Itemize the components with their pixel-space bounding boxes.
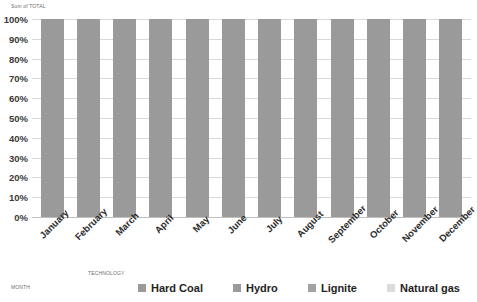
bar-segment[interactable]: [222, 19, 245, 217]
bar-segment[interactable]: [294, 19, 317, 217]
legend-entry[interactable]: Hydro: [233, 282, 278, 294]
x-axis-tick-slot: July: [252, 217, 289, 269]
bar-group[interactable]: [34, 19, 70, 217]
y-axis-tick-label: 70%: [9, 73, 28, 84]
bar-stack[interactable]: [331, 19, 354, 217]
bar-segment[interactable]: [186, 19, 209, 217]
bar-group[interactable]: [252, 19, 288, 217]
x-axis-tick-label: May: [190, 213, 211, 234]
y-axis: 0%10%20%30%40%50%60%70%80%90%100%: [0, 19, 30, 217]
x-axis-tick-slot: October: [361, 217, 398, 269]
bar-stack[interactable]: [77, 19, 100, 217]
y-axis-tick-label: 80%: [9, 53, 28, 64]
bar-group[interactable]: [397, 19, 433, 217]
pivot-value-field-caption: Sum of TOTAL: [11, 3, 46, 9]
legend-swatch-icon: [308, 284, 316, 292]
legend-label: Hydro: [246, 282, 278, 294]
bar-segment[interactable]: [41, 19, 64, 217]
legend-entry[interactable]: Hard Coal: [138, 282, 203, 294]
x-axis-tick-slot: March: [105, 217, 142, 269]
bar-stack[interactable]: [186, 19, 209, 217]
bar-stack[interactable]: [41, 19, 64, 217]
bar-segment[interactable]: [77, 19, 100, 217]
bar-group[interactable]: [433, 19, 469, 217]
bar-stack[interactable]: [294, 19, 317, 217]
x-axis-tick-slot: January: [32, 217, 69, 269]
bar-group[interactable]: [324, 19, 360, 217]
y-axis-tick-label: 40%: [9, 132, 28, 143]
x-axis-tick-slot: September: [325, 217, 362, 269]
x-axis-tick-slot: August: [288, 217, 325, 269]
x-axis-tick-label: July: [263, 213, 284, 234]
bar-segment[interactable]: [331, 19, 354, 217]
legend-swatch-icon: [233, 284, 241, 292]
bar-stack[interactable]: [403, 19, 426, 217]
bar-stack[interactable]: [222, 19, 245, 217]
x-axis-tick-slot: June: [215, 217, 252, 269]
legend-entry[interactable]: Lignite: [308, 282, 357, 294]
bar-group[interactable]: [360, 19, 396, 217]
y-axis-tick-label: 0%: [14, 212, 28, 223]
bar-stack[interactable]: [113, 19, 136, 217]
bar-group[interactable]: [215, 19, 251, 217]
chart-legend: Hard CoalHydroLigniteNatural gas: [138, 279, 460, 297]
bar-group[interactable]: [179, 19, 215, 217]
x-axis-tick-slot: May: [178, 217, 215, 269]
bar-stack[interactable]: [149, 19, 172, 217]
legend-label: Hard Coal: [151, 282, 203, 294]
bar-stack[interactable]: [367, 19, 390, 217]
x-axis: JanuaryFebruaryMarchAprilMayJuneJulyAugu…: [32, 217, 471, 269]
bar-stack[interactable]: [439, 19, 462, 217]
bar-segment[interactable]: [149, 19, 172, 217]
bar-segment[interactable]: [367, 19, 390, 217]
bar-group[interactable]: [70, 19, 106, 217]
bar-segment[interactable]: [258, 19, 281, 217]
legend-swatch-icon: [138, 284, 146, 292]
plot-area: [32, 19, 471, 217]
legend-entry[interactable]: Natural gas: [387, 282, 460, 294]
bar-segment[interactable]: [403, 19, 426, 217]
y-axis-tick-label: 50%: [9, 113, 28, 124]
legend-label: Natural gas: [400, 282, 460, 294]
pivot-row-field-caption: TECHNOLOGY: [88, 270, 125, 276]
legend-swatch-icon: [387, 284, 395, 292]
y-axis-tick-label: 100%: [4, 14, 28, 25]
y-axis-tick-label: 30%: [9, 152, 28, 163]
bar-group[interactable]: [288, 19, 324, 217]
y-axis-tick-label: 90%: [9, 33, 28, 44]
bar-segment[interactable]: [439, 19, 462, 217]
y-axis-tick-label: 10%: [9, 192, 28, 203]
bar-series-layer: [32, 19, 471, 217]
bar-group[interactable]: [107, 19, 143, 217]
pivot-column-field-caption: MONTH: [11, 284, 30, 290]
x-axis-tick-slot: December: [434, 217, 471, 269]
y-axis-tick-label: 60%: [9, 93, 28, 104]
x-axis-tick-slot: April: [142, 217, 179, 269]
bar-group[interactable]: [143, 19, 179, 217]
bar-stack[interactable]: [258, 19, 281, 217]
y-axis-tick-label: 20%: [9, 172, 28, 183]
x-axis-tick-slot: February: [69, 217, 106, 269]
legend-label: Lignite: [321, 282, 357, 294]
bar-segment[interactable]: [113, 19, 136, 217]
x-axis-tick-slot: November: [398, 217, 435, 269]
